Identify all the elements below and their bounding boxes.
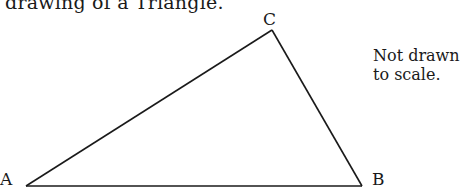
scale-note-line1: Not drawn [373, 46, 460, 65]
triangle-diagram [0, 0, 468, 187]
scale-note: Not drawn to scale. [373, 46, 460, 84]
scale-note-line2: to scale. [373, 65, 460, 84]
side-ac [26, 30, 272, 186]
vertex-label-c: C [263, 11, 276, 28]
vertex-label-b: B [372, 171, 385, 187]
vertex-label-a: A [0, 171, 12, 187]
side-cb [272, 30, 362, 186]
